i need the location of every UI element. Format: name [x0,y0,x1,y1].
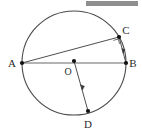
point-b [124,61,128,65]
label-b: B [129,57,136,69]
segment-ac [22,37,119,63]
point-d [86,109,90,113]
point-a [20,61,24,65]
label-c: C [122,24,129,36]
label-o: O [64,66,71,77]
point-c [117,35,121,39]
point-o [72,59,76,63]
label-a: A [8,57,16,69]
geometry-figure: A B C D O [0,0,142,134]
right-angle-marker [113,39,119,44]
label-d: D [84,118,92,130]
circle-diagram-svg: A B C D O [0,0,142,134]
